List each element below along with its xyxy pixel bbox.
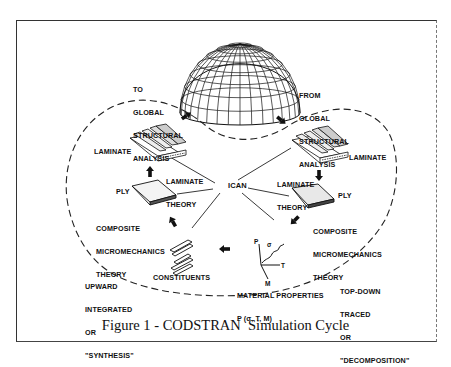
laminate-theory-left-label: LAMINATE THEORY	[166, 163, 203, 216]
to-global-line-4: ANALYSIS	[133, 155, 183, 163]
from-global-line-2: GLOBAL	[299, 115, 349, 123]
micromech-right-line-1: COMPOSITE	[313, 228, 382, 236]
arrow-left-constituents-icon	[219, 245, 230, 253]
topdown-line-4: "DECOMPOSITION"	[340, 357, 409, 365]
to-global-line-1: TO	[133, 86, 183, 94]
ply-left-label: PLY	[116, 188, 130, 196]
material-properties-line-1: MATERIAL PROPERTIES	[237, 292, 324, 300]
graph-t-label: T	[281, 262, 285, 270]
from-global-line-1: FROM	[299, 92, 349, 100]
constituents-fibers-icon	[170, 240, 193, 275]
dome-structure-icon	[180, 43, 300, 125]
to-global-line-3: STRUCTURAL	[133, 132, 183, 140]
dome-longitude-line	[190, 44, 240, 120]
upward-line-4: "SYNTHESIS"	[85, 352, 134, 360]
laminate-right-label: LAMINATE	[349, 154, 386, 162]
upward-line-1: UPWARD	[85, 283, 134, 291]
micromech-left-line-2: MICROMECHANICS	[96, 248, 165, 256]
graph-p-label: P	[254, 238, 258, 246]
micromech-left-line-1: COMPOSITE	[96, 225, 165, 233]
property-curve	[262, 244, 284, 263]
topdown-line-1: TOP-DOWN	[340, 288, 409, 296]
from-global-label: FROM GLOBAL STRUCTURAL ANALYSIS	[299, 77, 349, 176]
graph-sigma-label: σ	[267, 241, 272, 249]
micromech-right-line-2: MICROMECHANICS	[313, 251, 382, 259]
ply-right-label: PLY	[338, 192, 352, 200]
laminate-theory-right-label: LAMINATE THEORY	[277, 166, 314, 219]
laminate-theory-right-line-1: LAMINATE	[277, 181, 314, 189]
from-global-line-3: STRUCTURAL	[299, 138, 349, 146]
ican-center-label: ICAN	[228, 182, 247, 190]
arrow-up-micromechanics-icon	[167, 215, 179, 229]
dome-longitude-line	[240, 44, 290, 120]
figure-caption: Figure 1 - CODSTRAN Simulation Cycle	[0, 317, 451, 334]
laminate-theory-left-line-1: LAMINATE	[166, 178, 203, 186]
constituents-label: CONSTITUENTS	[153, 274, 210, 282]
laminate-left-label: LAMINATE	[94, 148, 131, 156]
topdown-line-3: OR	[340, 334, 409, 342]
laminate-theory-left-line-2: THEORY	[166, 201, 203, 209]
upward-line-2: INTEGRATED	[85, 306, 134, 314]
to-global-line-2: GLOBAL	[133, 109, 183, 117]
p-axis	[259, 244, 261, 265]
to-global-label: TO GLOBAL STRUCTURAL ANALYSIS	[133, 71, 183, 170]
laminate-theory-right-line-2: THEORY	[277, 204, 314, 212]
spoke-material-properties	[242, 193, 274, 220]
